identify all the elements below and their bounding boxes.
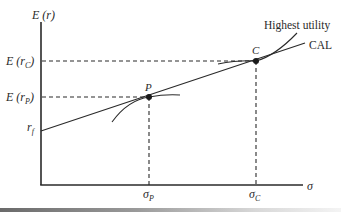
point-c-marker — [253, 58, 259, 64]
utility-curve-p — [112, 95, 180, 122]
y-axis-label: E (r) — [31, 8, 55, 22]
cal-line — [41, 43, 305, 131]
highest-utility-label: Highest utility — [264, 19, 330, 32]
point-p-label: P — [144, 81, 152, 93]
cal-label: CAL — [309, 39, 332, 51]
sigma-c-label: σC — [249, 187, 261, 203]
sigma-p-label: σP — [143, 187, 154, 203]
e-rc-label: E (rC) — [5, 54, 34, 70]
cal-diagram: E (r) σ E (rC) E (rP) rf σP σC P C Highe… — [0, 0, 341, 212]
rf-label: rf — [27, 120, 36, 136]
point-c-label: C — [252, 44, 260, 56]
e-rp-label: E (rP) — [5, 90, 34, 106]
point-p-marker — [146, 94, 152, 100]
bottom-divider — [0, 208, 341, 212]
x-axis-label: σ — [307, 179, 314, 193]
